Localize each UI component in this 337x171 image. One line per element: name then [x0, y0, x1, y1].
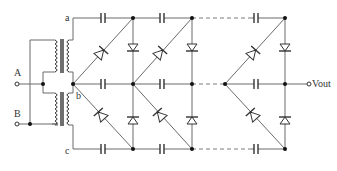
- diode: [127, 44, 139, 51]
- upper-transformer: [52, 18, 73, 84]
- input-section: A B: [14, 40, 58, 126]
- rails: [73, 18, 307, 149]
- label-rail-a: a: [65, 12, 70, 23]
- capacitor: [160, 79, 164, 89]
- diode: [186, 117, 198, 124]
- label-rail-c: c: [65, 145, 70, 156]
- terminal-b: [15, 122, 19, 126]
- diode: [186, 44, 198, 51]
- label-b: B: [14, 108, 21, 119]
- capacitor: [160, 144, 164, 154]
- capacitor: [101, 13, 105, 23]
- capacitor: [160, 13, 164, 23]
- capacitor: [254, 13, 258, 23]
- output-terminal: Vout: [307, 78, 331, 89]
- capacitor: [254, 79, 258, 89]
- circuit-diagram: A B a b c: [0, 0, 337, 171]
- label-vout: Vout: [312, 78, 331, 89]
- lower-transformer: [52, 84, 73, 149]
- junction-node: [41, 82, 45, 86]
- junction-node: [28, 122, 32, 126]
- terminal-a: [15, 82, 19, 86]
- diode: [279, 44, 291, 51]
- label-a: A: [14, 67, 22, 78]
- capacitor: [101, 79, 105, 89]
- diode: [279, 117, 291, 124]
- diode: [127, 117, 139, 124]
- capacitor: [101, 144, 105, 154]
- capacitor: [254, 144, 258, 154]
